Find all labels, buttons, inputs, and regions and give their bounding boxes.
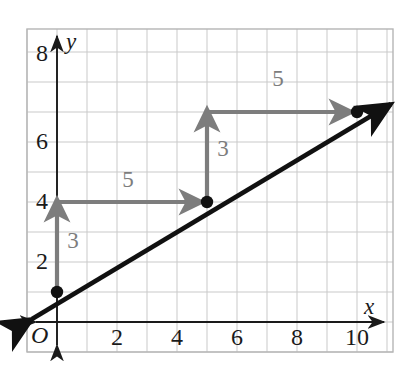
x-tick-8: 8 — [282, 325, 312, 349]
run-label-2: 5 — [267, 67, 289, 90]
y-tick-4: 4 — [31, 189, 53, 213]
rise-label-1: 3 — [62, 229, 84, 252]
x-tick-6: 6 — [222, 325, 252, 349]
origin-label: O — [31, 323, 48, 347]
run-label-1: 5 — [117, 168, 139, 191]
x-axis-label: x — [364, 295, 374, 318]
point-10-7 — [351, 106, 363, 118]
plot-background — [27, 29, 393, 352]
coordinate-plane-figure: y x O 2 4 6 8 10 2 4 6 8 3 5 3 5 — [0, 0, 416, 374]
point-0-1 — [51, 286, 63, 298]
rise-label-2: 3 — [212, 137, 234, 160]
y-tick-6: 6 — [31, 129, 53, 153]
x-tick-2: 2 — [102, 325, 132, 349]
point-5-4 — [201, 196, 213, 208]
y-tick-8: 8 — [31, 41, 53, 65]
x-tick-4: 4 — [162, 325, 192, 349]
y-tick-2: 2 — [31, 249, 53, 273]
graph-canvas — [0, 0, 416, 374]
y-axis-label: y — [66, 30, 76, 53]
x-tick-10: 10 — [340, 325, 374, 349]
